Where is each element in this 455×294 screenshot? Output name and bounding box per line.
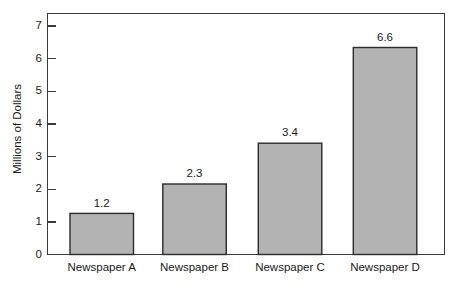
category-label-newspaper-b: Newspaper B <box>160 261 229 273</box>
value-label-newspaper-d: 6.6 <box>377 31 393 43</box>
y-tick-label-5: 5 <box>36 84 42 96</box>
category-label-newspaper-d: Newspaper D <box>350 261 420 273</box>
value-label-newspaper-a: 1.2 <box>94 197 110 209</box>
bar-newspaper-b <box>163 184 227 255</box>
bar-newspaper-a <box>70 213 134 254</box>
bar-newspaper-d <box>353 48 417 255</box>
chart-canvas: 0 1 2 3 4 5 6 7 Millions of Dollars 1.2 … <box>0 0 455 294</box>
value-label-newspaper-b: 2.3 <box>187 167 203 179</box>
y-tick-label-3: 3 <box>36 150 42 162</box>
y-tick-label-2: 2 <box>36 182 42 194</box>
y-tick-label-0: 0 <box>36 248 42 260</box>
y-tick-label-1: 1 <box>36 215 42 227</box>
y-tick-label-6: 6 <box>36 52 42 64</box>
bar-newspaper-c <box>258 143 322 254</box>
y-tick-label-7: 7 <box>36 19 42 31</box>
value-label-newspaper-c: 3.4 <box>282 126 299 138</box>
y-axis-title: Millions of Dollars <box>11 84 23 174</box>
y-axis-title-group: Millions of Dollars <box>11 84 23 174</box>
category-label-newspaper-c: Newspaper C <box>255 261 325 273</box>
y-tick-label-4: 4 <box>36 117 43 129</box>
category-label-newspaper-a: Newspaper A <box>67 261 136 273</box>
bar-chart-figure: 0 1 2 3 4 5 6 7 Millions of Dollars 1.2 … <box>0 0 455 294</box>
